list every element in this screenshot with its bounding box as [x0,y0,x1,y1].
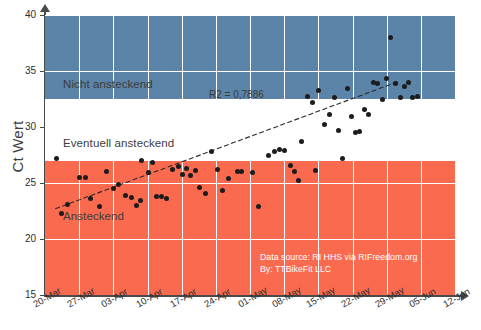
data-point [406,80,411,85]
data-point [59,211,64,216]
data-point [256,204,261,209]
gridline-vertical [455,15,456,295]
data-point [398,95,403,100]
data-point [299,139,304,144]
data-point [336,128,341,133]
data-point [384,76,389,81]
source-note-line1: Data source: RI HHS via RIFreedom.org [260,252,417,264]
y-tick-label: 25 [10,177,36,188]
y-tick-mark [40,183,45,184]
y-tick-label: 30 [10,121,36,132]
data-point [380,97,385,102]
data-point [266,153,271,158]
y-tick-label: 40 [10,9,36,20]
data-point [288,163,293,168]
data-point [362,107,367,112]
data-point [176,164,181,169]
data-point [209,149,214,154]
y-tick-label: 35 [10,65,36,76]
scatter-chart: Ct Wert Nicht ansteckendEventuell anstec… [0,0,481,330]
data-point [277,147,282,152]
data-point [220,188,225,193]
data-point [340,156,345,161]
data-point [402,84,407,89]
data-point [123,193,128,198]
data-point [215,167,220,172]
data-point [134,203,139,208]
source-note-line2: By: TTBikeFit LLC [260,264,417,276]
y-tick-label: 20 [10,233,36,244]
data-point [180,172,185,177]
y-tick-mark [40,15,45,16]
data-point [310,100,315,105]
plot-area: Nicht ansteckendEventuell ansteckendAnst… [45,15,455,295]
data-point [54,156,59,161]
data-point [97,204,102,209]
data-point [83,175,88,180]
data-point [316,88,321,93]
y-axis-arrow-icon [40,4,50,12]
y-tick-mark [40,239,45,240]
source-note: Data source: RI HHS via RIFreedom.orgBy:… [260,252,417,276]
data-point [388,35,393,40]
data-point [116,182,121,187]
y-tick-mark [40,127,45,128]
y-tick-mark [40,71,45,72]
data-point [154,194,159,199]
data-point [203,191,208,196]
r-squared-annotation: R2 = 0,7886 [209,89,264,100]
data-point [65,202,70,207]
